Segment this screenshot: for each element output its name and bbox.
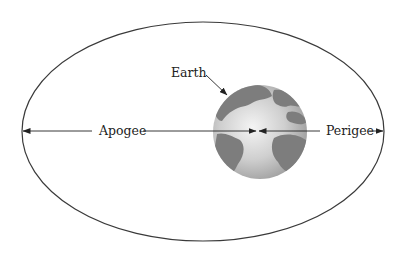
earth-pointer-arrow: [206, 75, 227, 95]
earth-label: Earth: [171, 65, 207, 80]
apogee-label: Apogee: [98, 123, 146, 138]
orbit-diagram: Earth Apogee Perigee: [0, 0, 406, 256]
perigee-label: Perigee: [326, 123, 374, 138]
earth-globe: [213, 85, 307, 180]
